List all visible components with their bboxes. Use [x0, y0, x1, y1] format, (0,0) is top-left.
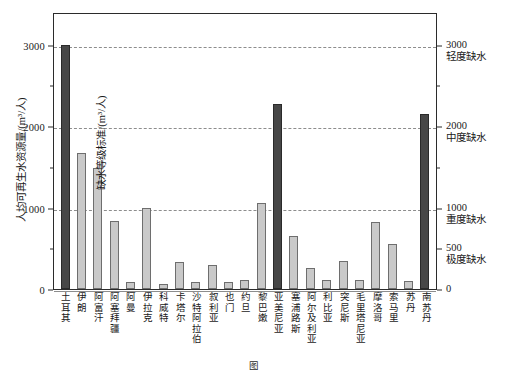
y-axis-right-title: 缺水等级标准/(m³/人) — [93, 48, 108, 238]
bar — [322, 280, 331, 289]
y-axis-right-tick — [437, 208, 442, 209]
water-scarcity-level: 极度缺水 — [446, 254, 486, 266]
x-axis-tick-label: 摩洛哥 — [372, 292, 381, 362]
bar — [257, 203, 266, 289]
water-level-value: 500 — [446, 242, 486, 254]
y-axis-right-tick-label: 1000重度缺水 — [446, 202, 486, 226]
y-axis-right-tick — [437, 127, 442, 128]
bar — [289, 236, 298, 289]
y-axis-right-tick — [437, 249, 442, 250]
y-axis-left-tick — [50, 249, 53, 250]
bar — [420, 114, 429, 289]
bar — [208, 265, 217, 289]
y-axis-left-tick-label: 0 — [40, 285, 45, 296]
water-scarcity-level: 轻度缺水 — [446, 51, 486, 63]
y-axis-left-tick — [48, 127, 53, 128]
x-axis-tick-label: 科威特 — [158, 292, 167, 362]
bar — [159, 284, 168, 289]
x-axis-tick-label: 黎巴嫩 — [257, 292, 266, 362]
water-level-value: 0 — [446, 283, 451, 295]
bars-group — [54, 14, 436, 289]
x-axis-tick-label: 南苏丹 — [421, 292, 430, 362]
x-axis-tick-label: 苏丹 — [405, 292, 414, 362]
x-axis-tick-label: 阿曼 — [125, 292, 134, 362]
water-scarcity-level: 重度缺水 — [446, 214, 486, 226]
x-axis-tick-label: 亚美尼亚 — [273, 292, 282, 362]
bar — [142, 208, 151, 289]
bar — [404, 281, 413, 289]
x-axis-tick-label: 索马里 — [388, 292, 397, 362]
y-axis-left-title: 人均可再生水资源量/(m³/人) — [13, 65, 28, 255]
bar — [110, 221, 119, 289]
bar — [191, 282, 200, 289]
figure-container: 3000200010000 人均可再生水资源量/(m³/人) 3000轻度缺水2… — [0, 0, 507, 370]
y-axis-right-tick — [437, 290, 442, 291]
water-level-value: 3000 — [446, 39, 486, 51]
bar — [273, 104, 282, 289]
y-axis-right-tick-label: 0 — [446, 283, 451, 295]
y-axis-left-tick — [50, 167, 53, 168]
bar — [77, 153, 86, 289]
x-axis-tick-label: 卡塔尔 — [175, 292, 184, 362]
x-axis-tick-label: 约旦 — [240, 292, 249, 362]
y-axis-right: 3000轻度缺水2000中度缺水1000重度缺水500极度缺水0 — [437, 13, 507, 290]
y-axis-left-tick — [48, 45, 53, 46]
x-axis-tick-label: 伊朗 — [76, 292, 85, 362]
x-axis-tick-label: 阿尔及利亚 — [306, 292, 315, 362]
x-axis-tick-label: 阿塞拜疆 — [109, 292, 118, 362]
y-axis-left-tick-label: 3000 — [23, 40, 45, 51]
x-axis-tick-label: 阿富汗 — [93, 292, 102, 362]
x-axis-labels: 土耳其伊朗阿富汗阿塞拜疆阿曼伊拉克科威特卡塔尔沙特阿拉伯叙利亚也门约旦黎巴嫩亚美… — [53, 292, 437, 362]
x-axis-tick-label: 伊拉克 — [142, 292, 151, 362]
bar — [240, 280, 249, 289]
x-axis-tick-label: 毛里塔尼亚 — [355, 292, 364, 362]
bar — [224, 282, 233, 289]
bar — [371, 222, 380, 289]
bar — [339, 261, 348, 290]
figure-caption: 图 — [0, 358, 507, 370]
y-axis-right-tick — [437, 86, 440, 87]
y-axis-right-tick-label: 2000中度缺水 — [446, 120, 486, 144]
y-axis-right-tick — [437, 167, 440, 168]
bar — [306, 268, 315, 289]
y-axis-left-tick — [48, 208, 53, 209]
bar — [61, 45, 70, 289]
x-axis-tick-label: 利比亚 — [322, 292, 331, 362]
x-axis-tick-label: 叙利亚 — [208, 292, 217, 362]
x-axis-tick-label: 塞浦路斯 — [290, 292, 299, 362]
y-axis-left-tick — [50, 86, 53, 87]
x-axis-tick-label: 也门 — [224, 292, 233, 362]
y-axis-right-tick-label: 500极度缺水 — [446, 242, 486, 266]
y-axis-right-tick — [437, 45, 442, 46]
y-axis-left-tick — [48, 290, 53, 291]
bar — [355, 280, 364, 289]
bar — [388, 244, 397, 289]
water-scarcity-level: 中度缺水 — [446, 132, 486, 144]
bar — [175, 262, 184, 289]
x-axis-tick-label: 土耳其 — [60, 292, 69, 362]
water-level-value: 1000 — [446, 202, 486, 214]
x-axis-tick-label: 突尼斯 — [339, 292, 348, 362]
y-axis-right-tick-label: 3000轻度缺水 — [446, 39, 486, 63]
bar — [126, 282, 135, 289]
plot-area — [53, 13, 437, 290]
x-axis-tick-label: 沙特阿拉伯 — [191, 292, 200, 362]
water-level-value: 2000 — [446, 120, 486, 132]
